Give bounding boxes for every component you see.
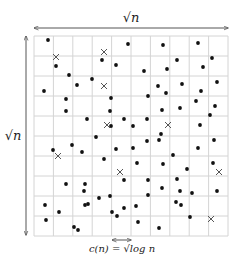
point-dot (64, 109, 68, 113)
point-dot (70, 143, 74, 147)
point-dot (122, 178, 126, 182)
point-dot (210, 56, 214, 60)
point-dot (208, 113, 212, 117)
grid (34, 36, 228, 236)
point-dot (179, 203, 183, 207)
point-dot (126, 42, 130, 46)
point-dot (145, 117, 149, 121)
point-dot (145, 139, 149, 143)
point-dot (142, 69, 146, 73)
point-dot (165, 67, 169, 71)
cross-marker (104, 122, 110, 128)
cell-size-formula-label: c(n) = √log n (89, 243, 155, 254)
point-dot (211, 161, 215, 165)
point-dot (188, 215, 192, 219)
point-dot (180, 82, 184, 86)
point-dot (42, 89, 46, 93)
point-dot (171, 153, 175, 157)
point-dot (160, 108, 164, 112)
cross-marker (101, 49, 107, 55)
point-dot (97, 196, 101, 200)
point-dot (94, 135, 98, 139)
cross-marker (101, 83, 107, 89)
point-dot (160, 186, 164, 190)
point-dot (159, 132, 163, 136)
point-dot (146, 94, 150, 98)
point-dot (174, 200, 178, 204)
point-dot (43, 203, 47, 207)
point-dot (146, 178, 150, 182)
cross-marker (216, 169, 222, 175)
point-dot (199, 89, 203, 93)
point-dot (90, 77, 94, 81)
point-dot (102, 157, 106, 161)
point-dot (178, 106, 182, 110)
sqrt-n-grid-diagram: √n √n c(n) = √log n (0, 0, 240, 264)
point-dot (51, 148, 55, 152)
point-dot (135, 161, 139, 165)
point-dot (190, 191, 194, 195)
point-dot (100, 58, 104, 62)
point-dot (215, 189, 219, 193)
point-dot (157, 226, 161, 230)
point-dot (156, 84, 160, 88)
point-dot (136, 220, 140, 224)
point-dot (201, 65, 205, 69)
point-dot (146, 193, 150, 197)
point-dot (108, 194, 112, 198)
point-dot (109, 96, 113, 100)
point-dot (213, 104, 217, 108)
left-sqrt-n-label: √n (5, 128, 22, 143)
point-dot (134, 204, 138, 208)
point-dot (114, 63, 118, 67)
point-dot (46, 38, 50, 42)
point-dot (57, 210, 61, 214)
point-dot (114, 147, 118, 151)
point-dot (161, 43, 165, 47)
top-sqrt-n-label: √n (123, 10, 140, 25)
point-dot (212, 138, 216, 142)
dimension-arrows (26, 28, 228, 240)
point-dot (196, 146, 200, 150)
point-dot (64, 97, 68, 101)
point-dot (108, 109, 112, 113)
point-dot (178, 189, 182, 193)
point-dot (215, 80, 219, 84)
point-dot (85, 117, 89, 121)
cross-marker (117, 169, 123, 175)
point-dot (80, 150, 84, 154)
point-dot (67, 73, 71, 77)
point-dot (75, 83, 79, 87)
point-dot (175, 177, 179, 181)
point-dot (64, 182, 68, 186)
point-dot (164, 91, 168, 95)
point-dot (185, 167, 189, 171)
point-dot (44, 218, 48, 222)
point-dot (54, 64, 58, 68)
point-dot (86, 202, 90, 206)
point-dot (122, 206, 126, 210)
point-dot (131, 146, 135, 150)
point-dot (131, 124, 135, 128)
point-dot (175, 58, 179, 62)
point-dot (196, 41, 200, 45)
point-dot (161, 162, 165, 166)
point-dot (76, 228, 80, 232)
point-dot (82, 189, 86, 193)
point-dot (83, 182, 87, 186)
point-dot (157, 138, 161, 142)
point-dot (72, 225, 76, 229)
point-dot (198, 123, 202, 127)
point-dot (122, 117, 126, 121)
point-dot (110, 210, 114, 214)
point-dot (115, 214, 119, 218)
point-dot (194, 99, 198, 103)
